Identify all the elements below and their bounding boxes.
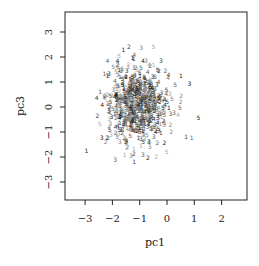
data-point: 3 <box>125 67 129 74</box>
data-point: 1 <box>85 147 89 154</box>
data-point: 5 <box>140 122 144 129</box>
data-point: 3 <box>169 110 173 117</box>
data-point: 4 <box>147 61 151 68</box>
data-point: 3 <box>115 64 119 71</box>
data-point: 1 <box>136 134 140 141</box>
scatter-chart: 2513345415113441233253353444314514454234… <box>0 0 259 266</box>
data-point: 5 <box>149 97 153 104</box>
data-point: 3 <box>109 113 113 120</box>
y-tick-label: −1 <box>43 125 54 140</box>
data-point: 4 <box>115 57 119 64</box>
data-point: 2 <box>106 72 110 79</box>
data-point: 4 <box>166 71 170 78</box>
data-point: 1 <box>123 151 127 158</box>
data-point: 5 <box>151 43 155 50</box>
data-point: 5 <box>196 114 200 121</box>
y-tick-label: 2 <box>43 54 54 60</box>
data-point: 5 <box>173 81 177 88</box>
data-points: 2513345415113441233253353444314514454234… <box>85 43 201 165</box>
data-point: 4 <box>176 111 180 118</box>
data-point: 3 <box>148 143 152 150</box>
data-point: 1 <box>132 145 136 152</box>
data-point: 3 <box>117 130 121 137</box>
data-point: 1 <box>179 72 183 79</box>
data-point: 3 <box>139 44 143 51</box>
data-point: 1 <box>122 84 126 91</box>
data-point: 2 <box>120 109 124 116</box>
data-point: 2 <box>134 98 138 105</box>
data-point: 2 <box>127 43 131 50</box>
data-point: 3 <box>149 81 153 88</box>
data-point: 3 <box>113 156 117 163</box>
data-point: 5 <box>165 148 169 155</box>
data-point: 2 <box>114 114 118 121</box>
data-point: 1 <box>155 95 159 102</box>
data-point: 2 <box>137 107 141 114</box>
data-point: 5 <box>108 126 112 133</box>
data-point: 1 <box>98 88 102 95</box>
data-point: 5 <box>162 121 166 128</box>
y-tick-label: 1 <box>43 79 54 85</box>
data-point: 3 <box>160 89 164 96</box>
x-tick-label: −2 <box>105 213 120 224</box>
x-axis: −3−2−1012 <box>78 200 225 224</box>
data-point: 1 <box>121 46 125 53</box>
data-point: 2 <box>144 102 148 109</box>
data-point: 5 <box>128 132 132 139</box>
data-point: 2 <box>155 139 159 146</box>
x-axis-label: pc1 <box>145 236 165 249</box>
data-point: 2 <box>179 98 183 105</box>
data-point: 4 <box>141 57 145 64</box>
y-tick-label: 3 <box>43 29 54 35</box>
data-point: 2 <box>157 67 161 74</box>
data-point: 3 <box>159 57 163 64</box>
data-point: 1 <box>139 142 143 149</box>
data-point: 1 <box>190 134 194 141</box>
data-point: 3 <box>142 85 146 92</box>
data-point: 1 <box>132 158 136 165</box>
data-point: 2 <box>146 154 150 161</box>
data-point: 2 <box>104 138 108 145</box>
data-point: 2 <box>95 112 99 119</box>
data-point: 3 <box>141 151 145 158</box>
data-point: 2 <box>169 128 173 135</box>
data-point: 2 <box>150 125 154 132</box>
data-point: 2 <box>122 134 126 141</box>
data-point: 3 <box>128 114 132 121</box>
data-point: 4 <box>135 113 139 120</box>
x-tick-label: −3 <box>78 213 93 224</box>
x-tick-label: −1 <box>132 213 147 224</box>
data-point: 4 <box>132 51 136 58</box>
data-point: 5 <box>145 131 149 138</box>
data-point: 3 <box>152 133 156 140</box>
data-point: 2 <box>134 78 138 85</box>
data-point: 5 <box>120 65 124 72</box>
data-point: 3 <box>155 104 159 111</box>
x-tick-label: 0 <box>164 213 170 224</box>
data-point: 3 <box>114 82 118 89</box>
data-point: 3 <box>160 109 164 116</box>
data-point: 4 <box>152 115 156 122</box>
data-point: 4 <box>105 57 109 64</box>
data-point: 4 <box>128 122 132 129</box>
y-tick-label: −2 <box>43 150 54 165</box>
data-point: 5 <box>151 90 155 97</box>
data-point: 4 <box>95 94 99 101</box>
data-point: 3 <box>187 80 191 87</box>
y-axis-label: pc3 <box>14 96 27 116</box>
x-tick-label: 2 <box>218 213 224 224</box>
data-point: 4 <box>100 101 104 108</box>
x-tick-label: 1 <box>191 213 197 224</box>
data-point: 1 <box>184 133 188 140</box>
data-point: 5 <box>165 98 169 105</box>
data-point: 2 <box>154 153 158 160</box>
y-axis: −3−2−10123 <box>43 29 66 190</box>
data-point: 2 <box>162 95 166 102</box>
data-point: 4 <box>146 68 150 75</box>
data-point: 2 <box>114 96 118 103</box>
data-point: 2 <box>162 139 166 146</box>
data-point: 5 <box>98 120 102 127</box>
data-point: 4 <box>129 92 133 99</box>
y-tick-label: −3 <box>43 175 54 190</box>
y-tick-label: 0 <box>43 104 54 110</box>
